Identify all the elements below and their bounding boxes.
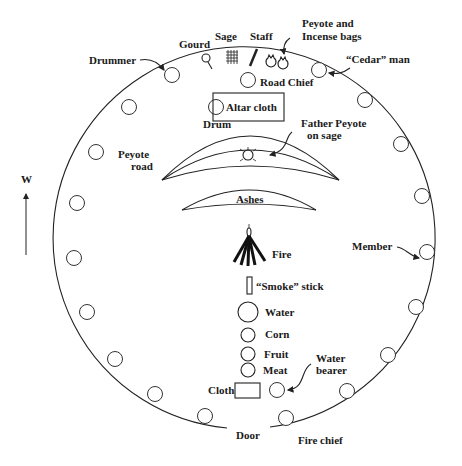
label-ashes: Ashes [236, 193, 264, 205]
label-cedar-man: “Cedar” man [346, 53, 410, 65]
seat-road-chief [241, 73, 256, 88]
fire-icon [234, 224, 265, 266]
seat [409, 300, 424, 315]
compass-west: W [21, 173, 32, 255]
seat [108, 352, 123, 367]
member-arrow [397, 247, 419, 258]
label-smoke-stick: “Smoke” stick [256, 280, 324, 292]
corn-bowl [241, 328, 255, 342]
fruit-bowl [241, 347, 255, 361]
label-corn: Corn [265, 328, 289, 340]
smoke-stick [247, 277, 252, 294]
seat [394, 137, 409, 152]
label-father-peyote-2: on sage [307, 129, 342, 141]
label-peyote-bags-1: Peyote and [302, 17, 354, 29]
seat [122, 100, 137, 115]
label-door: Door [236, 429, 260, 441]
label-cloth: Cloth [208, 384, 234, 396]
seat [89, 145, 104, 160]
label-fire: Fire [272, 248, 291, 260]
compass-label: W [21, 173, 32, 185]
gourd-icon [202, 54, 212, 69]
label-gourd: Gourd [179, 38, 210, 50]
water-bearer-arrow [288, 364, 311, 390]
seat-water-bearer [270, 383, 285, 398]
seat [415, 189, 430, 204]
label-sage: Sage [215, 30, 237, 42]
seat-fire-chief [279, 411, 294, 426]
father-peyote-icon [240, 147, 256, 161]
seat [340, 384, 355, 399]
drum [209, 100, 224, 115]
label-staff: Staff [250, 30, 273, 42]
seat [80, 305, 95, 320]
drummer-arrow [140, 59, 164, 70]
label-drummer: Drummer [89, 54, 136, 66]
label-fire-chief: Fire chief [298, 434, 343, 446]
peyote-bag-icon [266, 55, 276, 67]
seat [70, 196, 85, 211]
seat [148, 387, 163, 402]
meat-bowl [241, 363, 255, 377]
label-meat: Meat [263, 364, 288, 376]
label-father-peyote-1: Father Peyote [301, 117, 367, 129]
water-bowl [238, 302, 258, 322]
peyote-road [162, 136, 339, 180]
incense-bag-icon [278, 57, 288, 69]
seat [198, 409, 213, 424]
seat [67, 251, 82, 266]
label-peyote-road-1: Peyote [118, 148, 149, 160]
seat-member [420, 245, 435, 260]
seat-cedar-man [312, 63, 327, 78]
seat [381, 348, 396, 363]
seat-drummer [165, 68, 180, 83]
label-altar-cloth: Altar cloth [226, 101, 277, 113]
label-fruit: Fruit [264, 348, 289, 360]
tipi-diagram: W Drummer Gourd Sage [0, 0, 462, 466]
label-water-bearer-2: bearer [316, 364, 347, 376]
sage-icon [226, 50, 238, 64]
label-peyote-bags-2: Incense bags [302, 30, 362, 42]
label-road-chief: Road Chief [260, 76, 314, 88]
label-member: Member [352, 240, 392, 252]
label-drum: Drum [203, 118, 231, 130]
seat [358, 93, 373, 108]
cloth [235, 383, 260, 398]
label-water: Water [265, 306, 294, 318]
label-peyote-road-2: road [131, 160, 153, 172]
label-water-bearer-1: Water [316, 352, 345, 364]
staff-icon [250, 49, 257, 66]
